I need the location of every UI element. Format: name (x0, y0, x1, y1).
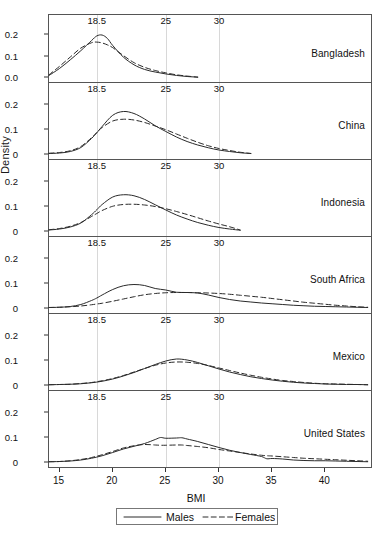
y-axis-tick-label: 0.1 (0, 201, 18, 212)
y-axis-tick-mark (44, 308, 48, 309)
density-curve-males (49, 195, 240, 231)
panel-mexico: 18.52530Mexico (48, 314, 372, 391)
y-axis-tick-mark (44, 77, 48, 78)
y-axis-tick-mark (44, 385, 48, 386)
y-axis-tick-label: 0 (0, 226, 18, 237)
y-axis-tick-label: 0.2 (0, 99, 18, 110)
panel-curves (49, 160, 373, 237)
y-axis-tick-label: 0.0 (0, 72, 18, 83)
x-axis-tick-label: 20 (106, 475, 117, 486)
panel-south-africa: 18.52530South Africa (48, 237, 372, 314)
y-axis-tick-label: 0.1 (0, 124, 18, 135)
y-axis-tick-label: 0.2 (0, 407, 18, 418)
legend-swatches: MalesFemales (119, 510, 275, 523)
y-axis-tick-mark (44, 104, 48, 105)
legend-label-males: Males (166, 511, 194, 523)
panel-china: 18.52530China (48, 83, 372, 160)
density-curve-females (49, 444, 368, 461)
y-axis-tick-label: 0.2 (0, 176, 18, 187)
density-curve-males (49, 359, 368, 385)
x-axis-tick-mark (324, 468, 325, 472)
legend: MalesFemales (116, 508, 278, 525)
x-axis-tick-mark (59, 468, 60, 472)
figure-root: Density 18.52530Bangladesh18.52530China1… (0, 0, 392, 543)
density-curve-males (49, 111, 251, 153)
page-footer-artifact (6, 534, 386, 543)
panel-curves (49, 237, 373, 314)
x-axis-tick-label: 35 (266, 475, 277, 486)
y-axis-tick-label: 0.1 (0, 355, 18, 366)
x-axis-tick-label: 25 (159, 475, 170, 486)
y-axis-tick-label: 0.2 (0, 330, 18, 341)
x-axis-tick-label: 30 (212, 475, 223, 486)
x-axis-tick-label: 15 (53, 475, 64, 486)
panel-curves (49, 15, 373, 84)
density-curve-males (49, 437, 368, 461)
y-axis-tick-mark (44, 231, 48, 232)
panel-bangladesh: 18.52530Bangladesh (48, 14, 372, 83)
y-axis-tick-mark (44, 154, 48, 155)
y-axis-tick-label: 0.1 (0, 278, 18, 289)
y-axis-tick-mark (44, 283, 48, 284)
panel-curves (49, 83, 373, 160)
y-axis-tick-mark (44, 55, 48, 56)
y-axis-tick-label: 0.1 (0, 50, 18, 61)
y-axis-tick-mark (44, 129, 48, 130)
x-axis-tick-label: 40 (319, 475, 330, 486)
x-axis-title: BMI (0, 492, 392, 504)
y-axis-tick-mark (44, 335, 48, 336)
y-axis-tick-label: 0.1 (0, 432, 18, 443)
panel-curves (49, 314, 373, 391)
x-axis-tick-mark (112, 468, 113, 472)
y-axis-tick-label: 0 (0, 303, 18, 314)
y-axis-tick-mark (44, 412, 48, 413)
x-axis-tick-mark (271, 468, 272, 472)
y-axis-tick-mark (44, 34, 48, 35)
x-axis-tick-mark (165, 468, 166, 472)
panel-indonesia: 18.52530Indonesia (48, 160, 372, 237)
density-figure: Density 18.52530Bangladesh18.52530China1… (0, 0, 392, 543)
panel-united-states: 18.52530United States (48, 391, 372, 468)
y-axis-tick-label: 0 (0, 457, 18, 468)
y-axis-tick-label: 0 (0, 149, 18, 160)
y-axis-tick-mark (44, 181, 48, 182)
y-axis-tick-label: 0.2 (0, 253, 18, 264)
y-axis-tick-mark (44, 437, 48, 438)
y-axis-tick-label: 0.2 (0, 29, 18, 40)
legend-label-females: Females (235, 511, 275, 523)
y-axis-tick-label: 0 (0, 380, 18, 391)
panel-curves (49, 391, 373, 468)
x-axis-tick-mark (218, 468, 219, 472)
y-axis-tick-mark (44, 462, 48, 463)
y-axis-tick-mark (44, 360, 48, 361)
y-axis-tick-mark (44, 206, 48, 207)
y-axis-tick-mark (44, 258, 48, 259)
